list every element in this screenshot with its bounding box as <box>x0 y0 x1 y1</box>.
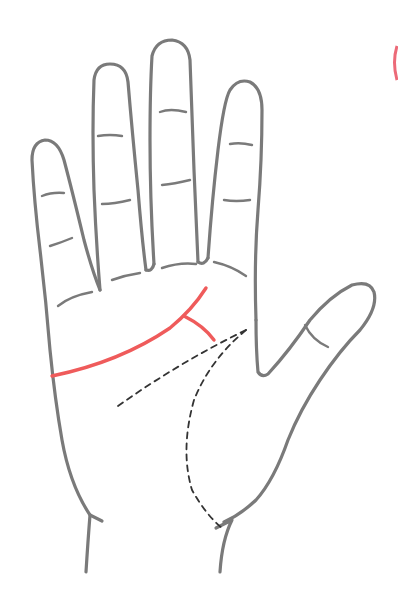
life-line <box>186 330 246 528</box>
head-line <box>118 330 246 406</box>
edge-arc-icon <box>395 46 398 80</box>
hand-outline <box>32 40 375 572</box>
palm-diagram <box>0 0 398 614</box>
heart-line <box>52 288 214 376</box>
